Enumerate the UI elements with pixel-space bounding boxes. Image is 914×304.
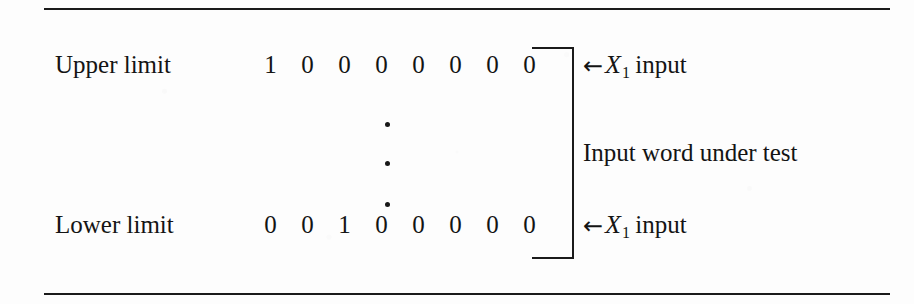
bit-cell: 0: [289, 212, 326, 237]
bracket-arm-top: [532, 47, 574, 49]
bit-cell: 0: [437, 212, 474, 237]
bit-cell: 0: [326, 52, 363, 77]
bit-cell: 0: [252, 212, 289, 237]
annotation-lower-input: ←X1 input: [583, 212, 687, 238]
bit-row-upper-limit: 1 0 0 0 0 0 0 0: [252, 52, 548, 77]
variable-subscript: 1: [622, 64, 630, 81]
annotation-upper-input: ←X1 input: [583, 52, 687, 78]
bit-cell: 0: [400, 52, 437, 77]
variable-name: X: [605, 50, 621, 79]
bit-row-lower-limit: 0 0 1 0 0 0 0 0: [252, 212, 548, 237]
annotation-suffix: input: [635, 51, 686, 78]
rule-top: [44, 8, 890, 10]
bit-cell: 0: [437, 52, 474, 77]
row-label-lower-limit: Lower limit: [55, 212, 174, 237]
figure-container: Upper limit 1 0 0 0 0 0 0 0 Lower limit …: [0, 0, 914, 304]
ellipsis-dot: [385, 202, 390, 207]
annotation-suffix: input: [635, 211, 686, 238]
bit-cell: 0: [363, 212, 400, 237]
bit-cell: 0: [289, 52, 326, 77]
left-arrow-icon: ←: [583, 212, 603, 240]
row-label-upper-limit: Upper limit: [55, 52, 171, 77]
bit-cell: 1: [252, 52, 289, 77]
bit-cell: 0: [474, 52, 511, 77]
bit-cell: 0: [474, 212, 511, 237]
variable-x: X1: [605, 210, 629, 239]
left-arrow-icon: ←: [583, 52, 603, 80]
vertical-ellipsis: [383, 118, 395, 212]
bracket-label-input-word-under-test: Input word under test: [583, 140, 798, 165]
ellipsis-dot: [385, 122, 390, 127]
variable-subscript: 1: [622, 224, 630, 241]
bit-cell: 0: [363, 52, 400, 77]
variable-x: X1: [605, 50, 629, 79]
ellipsis-dot: [385, 161, 390, 166]
bracket-arm-bottom: [532, 257, 574, 259]
bit-cell: 1: [326, 212, 363, 237]
bracket-spine: [572, 47, 574, 259]
rule-bottom: [44, 293, 890, 295]
right-square-bracket: [530, 47, 574, 259]
variable-name: X: [605, 210, 621, 239]
bit-cell: 0: [400, 212, 437, 237]
